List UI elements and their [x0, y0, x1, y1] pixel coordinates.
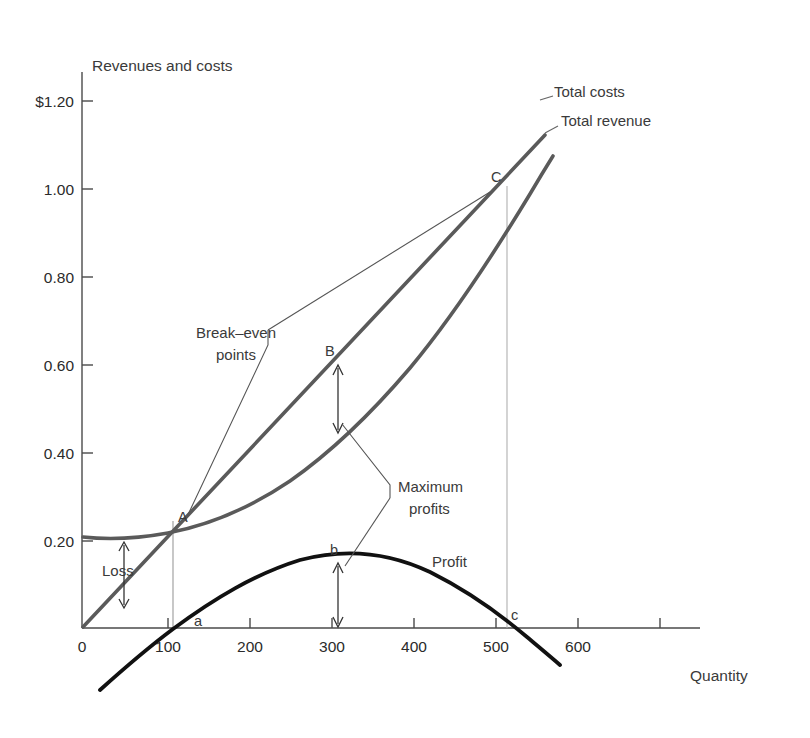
x-tick-label-100: 100 — [144, 637, 192, 656]
y-tick-label-040: 0.40 — [10, 444, 74, 463]
y-tick-label-020: 0.20 — [10, 532, 74, 551]
x-axis-ticks — [168, 618, 660, 628]
total-revenue-curve — [83, 135, 545, 627]
annotation-loss: Loss — [102, 562, 158, 581]
point-label-c: c — [511, 606, 518, 624]
annotation-maximum-line2: profits — [409, 500, 509, 519]
x-tick-label-200: 200 — [226, 637, 274, 656]
annotation-break-even-line2: points — [181, 346, 291, 365]
maximum-profit-arrow-b — [333, 365, 343, 433]
y-tick-label-100: 1.00 — [10, 180, 74, 199]
maximum-profits-leader-lines — [342, 424, 390, 566]
x-axis-title: Quantity — [690, 666, 748, 685]
point-label-a: a — [194, 612, 202, 630]
x-tick-label-0: 0 — [62, 637, 102, 656]
y-tick-label-120: $1.20 — [10, 92, 74, 111]
profit-curve — [100, 554, 560, 690]
x-tick-label-600: 600 — [554, 637, 602, 656]
series-label-total-revenue: Total revenue — [561, 112, 651, 131]
point-label-b: b — [330, 541, 338, 559]
point-label-C: C — [491, 168, 501, 186]
chart-canvas — [0, 0, 810, 738]
x-tick-label-500: 500 — [472, 637, 520, 656]
maximum-profit-arrow-b-lower — [333, 563, 343, 627]
point-label-B: B — [325, 342, 335, 360]
x-tick-label-400: 400 — [390, 637, 438, 656]
annotation-maximum-line1: Maximum — [398, 478, 498, 497]
series-label-profit: Profit — [432, 553, 467, 572]
y-axis-ticks — [82, 101, 93, 541]
point-label-A: A — [178, 508, 188, 526]
annotation-break-even-line1: Break–even — [181, 324, 291, 343]
axes-group — [82, 72, 700, 628]
y-axis-title: Revenues and costs — [92, 56, 232, 75]
break-even-chart: Revenues and costs Quantity $1.20 1.00 0… — [0, 0, 810, 738]
x-tick-label-300: 300 — [308, 637, 356, 656]
y-tick-label-060: 0.60 — [10, 356, 74, 375]
series-label-total-costs: Total costs — [554, 83, 625, 102]
y-tick-label-080: 0.80 — [10, 268, 74, 287]
